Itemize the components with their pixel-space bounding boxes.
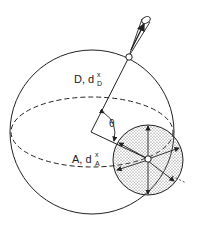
theta-label: θ — [109, 118, 115, 129]
probe-icon — [129, 15, 151, 56]
donor-label: D, d — [74, 73, 94, 85]
acceptor-label-sup: x — [95, 151, 99, 158]
donor-label-sub: D — [97, 80, 102, 87]
acceptor-node — [145, 156, 151, 162]
acceptor-label-sub: A — [95, 160, 100, 167]
fret-sphere-diagram: D, d x D A, d x A θ — [0, 0, 198, 227]
donor-label-sup: x — [97, 71, 101, 78]
donor-node — [126, 54, 132, 60]
acceptor-label: A, d — [72, 153, 92, 165]
